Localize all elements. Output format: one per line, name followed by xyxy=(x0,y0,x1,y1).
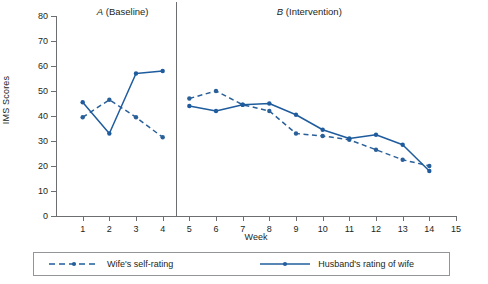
y-tick-label: 30 xyxy=(38,136,48,146)
y-axis-title: IMS Scores xyxy=(1,76,11,125)
y-tick-label: 10 xyxy=(38,186,48,196)
data-point xyxy=(294,131,298,135)
y-tick-label: 50 xyxy=(38,86,48,96)
x-tick-label: 1 xyxy=(80,224,85,234)
x-tick-label: 12 xyxy=(371,224,381,234)
data-point xyxy=(107,98,111,102)
x-tick-label: 13 xyxy=(398,224,408,234)
x-tick xyxy=(376,216,377,221)
data-point xyxy=(214,109,218,113)
x-tick xyxy=(456,216,457,221)
x-tick-label: 5 xyxy=(187,224,192,234)
x-tick xyxy=(136,216,137,221)
plot-area: 01020304050607080 123456789101112131415 … xyxy=(56,16,456,216)
x-tick-label: 11 xyxy=(345,224,354,234)
series-line xyxy=(189,91,429,166)
series-plot xyxy=(56,16,456,216)
x-tick-label: 9 xyxy=(293,224,298,234)
series-line xyxy=(83,100,163,138)
y-tick-label: 80 xyxy=(38,11,48,21)
data-point xyxy=(374,133,378,137)
series-wife xyxy=(80,89,431,168)
x-tick xyxy=(349,216,350,221)
chart-figure: IMS Scores Week 01020304050607080 123456… xyxy=(0,0,488,284)
data-point xyxy=(160,69,164,73)
legend-swatch-husband-solid-line xyxy=(259,259,311,269)
y-tick xyxy=(51,216,56,217)
data-point xyxy=(427,169,431,173)
x-tick-label: 2 xyxy=(107,224,112,234)
data-point xyxy=(134,115,138,119)
y-tick-label: 20 xyxy=(38,161,48,171)
y-tick-label: 60 xyxy=(38,61,48,71)
data-point xyxy=(400,158,404,162)
x-tick xyxy=(83,216,84,221)
x-tick-label: 7 xyxy=(240,224,245,234)
data-point xyxy=(80,100,84,104)
data-point xyxy=(320,134,324,138)
legend-item-wife: Wife's self-rating xyxy=(48,259,173,269)
data-point xyxy=(160,135,164,139)
x-tick-label: 4 xyxy=(160,224,165,234)
data-point xyxy=(240,103,244,107)
legend-label-wife: Wife's self-rating xyxy=(107,259,173,269)
x-tick xyxy=(163,216,164,221)
x-tick-label: 6 xyxy=(213,224,218,234)
legend-label-husband: Husband's rating of wife xyxy=(318,259,414,269)
series-line xyxy=(189,104,429,172)
x-axis-title: Week xyxy=(56,232,456,242)
y-tick-label: 70 xyxy=(38,36,48,46)
x-tick-label: 8 xyxy=(267,224,272,234)
data-point xyxy=(107,131,111,135)
data-point xyxy=(347,136,351,140)
data-point xyxy=(134,71,138,75)
x-tick xyxy=(109,216,110,221)
x-tick-label: 14 xyxy=(424,224,434,234)
y-tick-label: 0 xyxy=(43,211,48,221)
legend-item-husband: Husband's rating of wife xyxy=(259,259,414,269)
series-line xyxy=(83,71,163,134)
data-point xyxy=(187,104,191,108)
y-tick-label: 40 xyxy=(38,111,48,121)
data-point xyxy=(267,101,271,105)
x-axis-line xyxy=(56,216,456,217)
data-point xyxy=(80,115,84,119)
x-tick xyxy=(243,216,244,221)
x-tick xyxy=(323,216,324,221)
data-point xyxy=(267,109,271,113)
x-tick xyxy=(296,216,297,221)
data-point xyxy=(374,148,378,152)
x-tick-label: 3 xyxy=(133,224,138,234)
x-tick xyxy=(189,216,190,221)
x-tick xyxy=(216,216,217,221)
chart-legend: Wife's self-rating Husband's rating of w… xyxy=(33,252,450,276)
data-point xyxy=(214,89,218,93)
data-point xyxy=(320,128,324,132)
data-point xyxy=(187,96,191,100)
data-point xyxy=(427,164,431,168)
x-tick xyxy=(269,216,270,221)
legend-swatch-wife-dashed-line xyxy=(48,259,100,269)
x-tick-label: 10 xyxy=(318,224,328,234)
x-tick xyxy=(403,216,404,221)
data-point xyxy=(400,143,404,147)
series-husband xyxy=(80,69,431,173)
x-tick xyxy=(429,216,430,221)
data-point xyxy=(294,113,298,117)
x-tick-label: 15 xyxy=(451,224,461,234)
